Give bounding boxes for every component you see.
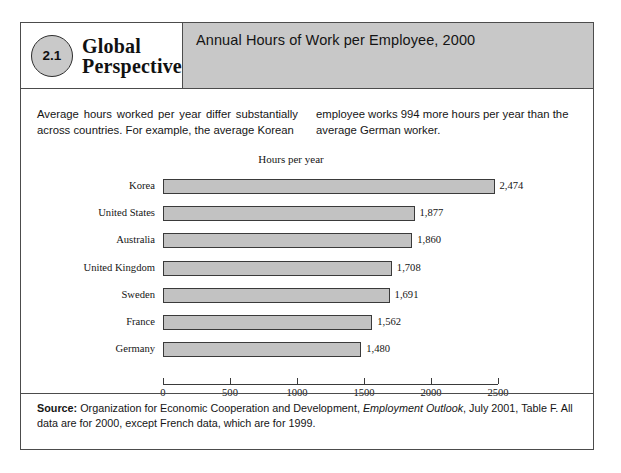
chart-category-label: Sweden (0, 289, 155, 300)
chart-bar-value-label: 1,480 (366, 343, 390, 354)
source-label: Source: (37, 402, 77, 414)
chart-axis-title: Hours per year (211, 153, 371, 165)
series-title: Global Perspective (82, 36, 182, 76)
source-note: Source: Organization for Economic Cooper… (21, 393, 593, 449)
chart-bar (163, 233, 412, 248)
chart-bar-value-label: 2,474 (500, 180, 524, 191)
intro-paragraph: Average hours worked per year differ sub… (21, 89, 593, 138)
chart-x-tick (431, 378, 432, 384)
chart-bar (163, 288, 390, 303)
chart-bar-row: Korea2,474 (21, 179, 593, 195)
figure-number-label: 2.1 (43, 48, 62, 63)
chart-x-tick (230, 378, 231, 384)
figure-container: 2.1 Global Perspective Annual Hours of W… (20, 22, 594, 450)
chart-category-label: Korea (0, 180, 155, 191)
series-title-line2: Perspective (82, 56, 182, 76)
chart-category-label: Australia (0, 234, 155, 245)
chart-bar-row: Australia1,860 (21, 233, 593, 249)
intro-column-right: employee works 994 more hours per year t… (316, 107, 577, 138)
chart-bar-value-label: 1,860 (417, 234, 441, 245)
chart-x-tick (498, 378, 499, 384)
chart-x-tick (364, 378, 365, 384)
chart-bar-value-label: 1,691 (395, 289, 419, 300)
chart-plot-area: Korea2,474United States1,877Australia1,8… (21, 171, 593, 405)
chart-category-label: France (0, 316, 155, 327)
chart-bar-row: Sweden1,691 (21, 288, 593, 304)
chart-category-label: United Kingdom (0, 262, 155, 273)
chart-bar (163, 206, 415, 221)
chart-category-label: Germany (0, 343, 155, 354)
series-title-line1: Global (82, 35, 141, 57)
source-text-part1: Organization for Economic Cooperation an… (77, 402, 363, 414)
figure-number-badge: 2.1 (31, 35, 73, 77)
chart-bar-row: United States1,877 (21, 206, 593, 222)
figure-header: 2.1 Global Perspective Annual Hours of W… (21, 23, 593, 89)
chart-x-axis-line (163, 384, 498, 385)
chart-bar-value-label: 1,708 (397, 262, 421, 273)
chart-bar (163, 179, 495, 194)
figure-title: Annual Hours of Work per Employee, 2000 (196, 32, 475, 48)
chart: Hours per year Korea2,474United States1,… (21, 153, 593, 405)
source-italic-title: Employment Outlook (363, 402, 463, 414)
chart-bar-value-label: 1,562 (377, 316, 401, 327)
chart-x-tick (163, 378, 164, 384)
chart-bar-value-label: 1,877 (420, 207, 444, 218)
chart-x-tick (297, 378, 298, 384)
chart-bar-row: United Kingdom1,708 (21, 261, 593, 277)
chart-bar-row: France1,562 (21, 315, 593, 331)
chart-category-label: United States (0, 207, 155, 218)
intro-column-left: Average hours worked per year differ sub… (37, 107, 298, 138)
chart-bar (163, 342, 361, 357)
figure-header-left: 2.1 Global Perspective (21, 23, 183, 88)
chart-bar (163, 315, 372, 330)
chart-bar-row: Germany1,480 (21, 342, 593, 358)
figure-header-right: Annual Hours of Work per Employee, 2000 (183, 23, 593, 88)
source-text: Source: Organization for Economic Cooper… (37, 401, 577, 430)
chart-bar (163, 261, 392, 276)
